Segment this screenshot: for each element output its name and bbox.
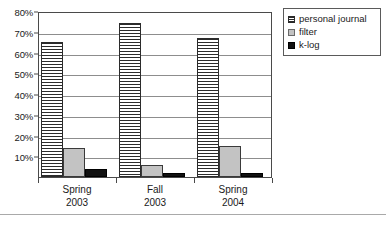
x-axis-category-season: Spring [194, 184, 272, 197]
bar-klog [163, 173, 185, 177]
y-axis-tick-label: 80% [15, 8, 33, 17]
legend-item: k-log [288, 39, 376, 51]
x-axis-category-year: 2003 [116, 197, 194, 210]
y-axis-tick-label: 20% [15, 132, 33, 141]
bar-journal [119, 23, 141, 177]
x-axis-category-year: 2003 [38, 197, 116, 210]
y-axis-tick-label: 60% [15, 49, 33, 58]
bars-layer [39, 13, 271, 177]
legend-item: personal journal [288, 13, 376, 25]
y-axis-tick-label: 70% [15, 28, 33, 37]
footer-divider [0, 214, 386, 215]
x-axis-category-season: Fall [116, 184, 194, 197]
gray-swatch-icon [288, 29, 295, 36]
x-axis-tick-mark [194, 178, 195, 183]
x-axis-category-season: Spring [38, 184, 116, 197]
x-axis-tick-mark [38, 178, 39, 183]
y-axis-tick-label: 30% [15, 111, 33, 120]
legend-item-label: personal journal [299, 14, 367, 24]
bar-journal [41, 42, 63, 177]
legend-item-label: k-log [299, 40, 320, 50]
bar-journal [197, 38, 219, 177]
bar-klog [85, 169, 107, 177]
plot-area [38, 12, 272, 178]
x-axis-category-label: Fall2003 [116, 184, 194, 209]
bar-filter [63, 148, 85, 177]
bar-klog [241, 173, 263, 177]
legend-item-label: filter [299, 27, 317, 37]
black-swatch-icon [288, 42, 295, 49]
hatched-swatch-icon [288, 16, 295, 23]
x-axis-tick-mark [116, 178, 117, 183]
y-axis-tick-label: 10% [15, 153, 33, 162]
bar-group [117, 13, 195, 177]
x-axis-tick-mark [272, 178, 273, 183]
bar-group [39, 13, 117, 177]
bar-chart-figure: 10%20%30%40%50%60%70%80% Spring2003Fall2… [0, 0, 386, 226]
bar-group [195, 13, 273, 177]
bar-filter [219, 146, 241, 177]
y-axis: 10%20%30%40%50%60%70%80% [0, 0, 38, 179]
x-axis-category-label: Spring2003 [38, 184, 116, 209]
y-axis-tick-label: 40% [15, 91, 33, 100]
chart-legend: personal journal filter k-log [283, 8, 381, 56]
legend-item: filter [288, 26, 376, 38]
y-axis-tick-label: 50% [15, 70, 33, 79]
bar-filter [141, 165, 163, 177]
x-axis-category-year: 2004 [194, 197, 272, 210]
x-axis-category-label: Spring2004 [194, 184, 272, 209]
